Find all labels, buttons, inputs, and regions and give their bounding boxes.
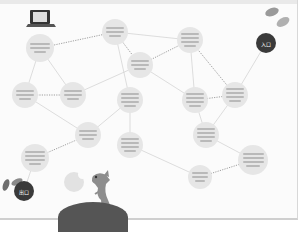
laptop-icon bbox=[26, 10, 56, 27]
diagram-node bbox=[117, 132, 143, 158]
node-text-line bbox=[124, 150, 136, 152]
diagram-node bbox=[238, 145, 268, 175]
node-text-line bbox=[121, 142, 139, 144]
edge-layer bbox=[0, 0, 297, 218]
end-label: 入口 bbox=[261, 40, 271, 47]
node-text-line bbox=[25, 151, 45, 153]
slippers-icon bbox=[264, 6, 291, 29]
node-text-line bbox=[192, 176, 209, 178]
node-text-line bbox=[243, 153, 264, 155]
node-text-line bbox=[226, 96, 244, 98]
node-text-line bbox=[197, 132, 215, 134]
node-text-line bbox=[243, 157, 264, 159]
diagram-node bbox=[117, 87, 143, 113]
moon-bite-shape bbox=[78, 170, 87, 179]
diagram-node bbox=[188, 165, 212, 189]
node-text-line bbox=[16, 94, 34, 96]
node-text-line bbox=[192, 172, 209, 174]
node-text-line bbox=[184, 45, 196, 47]
node-text-line bbox=[131, 64, 149, 66]
node-text-line bbox=[121, 93, 139, 95]
diagram-node bbox=[12, 82, 38, 108]
diagram-node bbox=[21, 144, 49, 172]
diagram-node bbox=[177, 27, 203, 53]
node-text-line bbox=[134, 68, 146, 70]
hill-shape bbox=[58, 202, 128, 232]
node-text-line bbox=[30, 43, 50, 45]
node-text-line bbox=[109, 35, 121, 37]
node-text-line bbox=[29, 163, 42, 165]
node-text-line bbox=[34, 51, 47, 53]
node-text-line bbox=[25, 159, 45, 161]
node-text-line bbox=[121, 146, 139, 148]
diagram-node bbox=[222, 82, 248, 108]
node-text-line bbox=[181, 37, 199, 39]
node-text-line bbox=[19, 98, 31, 100]
node-text-line bbox=[121, 138, 139, 140]
node-text-line bbox=[79, 134, 97, 136]
node-text-line bbox=[197, 128, 215, 130]
node-text-line bbox=[243, 161, 264, 163]
node-text-line bbox=[106, 31, 124, 33]
node-text-line bbox=[131, 60, 149, 62]
diagram-page: 入口 出口 bbox=[0, 0, 298, 220]
start-label: 出口 bbox=[19, 188, 29, 195]
node-text-line bbox=[200, 140, 212, 142]
node-text-line bbox=[106, 27, 124, 29]
node-text-line bbox=[181, 33, 199, 35]
node-text-line bbox=[181, 41, 199, 43]
node-text-line bbox=[226, 92, 244, 94]
node-text-line bbox=[67, 98, 79, 100]
node-text-line bbox=[226, 88, 244, 90]
node-text-line bbox=[79, 130, 97, 132]
node-text-line bbox=[82, 138, 94, 140]
node-text-line bbox=[25, 155, 45, 157]
node-text-line bbox=[121, 101, 139, 103]
node-text-line bbox=[186, 97, 204, 99]
node-text-line bbox=[124, 105, 136, 107]
node-text-line bbox=[16, 90, 34, 92]
diagram-node bbox=[102, 19, 128, 45]
node-text-line bbox=[121, 97, 139, 99]
diagram-node bbox=[75, 122, 101, 148]
node-text-line bbox=[197, 136, 215, 138]
node-text-line bbox=[189, 105, 201, 107]
diagram-node bbox=[193, 122, 219, 148]
node-text-line bbox=[186, 93, 204, 95]
node-text-line bbox=[195, 180, 206, 182]
node-text-line bbox=[30, 47, 50, 49]
diagram-node bbox=[26, 34, 54, 62]
node-text-line bbox=[64, 94, 82, 96]
node-text-line bbox=[229, 100, 241, 102]
diagram-node bbox=[60, 82, 86, 108]
diagram-node bbox=[182, 87, 208, 113]
start-node: 出口 bbox=[14, 181, 34, 201]
node-text-line bbox=[64, 90, 82, 92]
node-text-line bbox=[246, 165, 260, 167]
node-text-line bbox=[186, 101, 204, 103]
end-node: 入口 bbox=[256, 33, 276, 53]
diagram-node bbox=[127, 52, 153, 78]
